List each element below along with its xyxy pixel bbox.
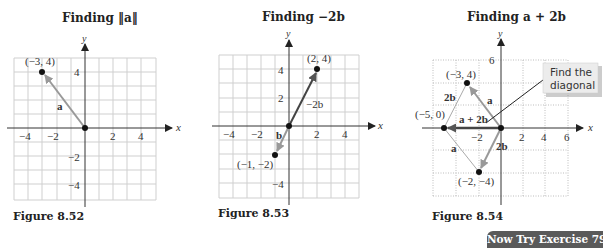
svg-text:(−2, −4): (−2, −4) xyxy=(458,175,495,188)
svg-text:2b: 2b xyxy=(444,91,456,103)
figure-1-caption: Figure 8.52 xyxy=(13,210,84,223)
svg-text:2: 2 xyxy=(519,131,525,143)
figure-2-caption: Figure 8.53 xyxy=(218,207,289,220)
svg-text:b: b xyxy=(276,129,282,141)
svg-text:−4: −4 xyxy=(19,130,31,142)
svg-text:−2: −2 xyxy=(47,130,59,142)
svg-text:y: y xyxy=(285,28,291,39)
svg-text:−4: −4 xyxy=(223,128,235,140)
svg-text:4: 4 xyxy=(278,64,284,76)
svg-text:x: x xyxy=(377,119,383,131)
callout-box: Find the diagonal xyxy=(543,63,602,97)
svg-text:(−3, 4): (−3, 4) xyxy=(446,68,476,81)
svg-text:4: 4 xyxy=(342,128,348,140)
svg-text:4: 4 xyxy=(138,130,144,142)
svg-text:−2: −2 xyxy=(471,131,483,143)
svg-text:−2b: −2b xyxy=(306,98,324,110)
svg-text:y: y xyxy=(497,28,503,39)
svg-text:−2: −2 xyxy=(68,151,80,163)
figure-3-plot: y x (−3, 4) (−5, 0) (−2, −4) a a 2b 2b a… xyxy=(400,0,610,215)
svg-text:y: y xyxy=(81,33,87,44)
svg-text:a: a xyxy=(57,100,63,112)
figure-3-caption: Figure 8.54 xyxy=(432,210,503,223)
figure-1-labels: y x (−3, 4) a −4 −2 2 4 4 −2 −4 xyxy=(0,0,200,215)
svg-text:6: 6 xyxy=(489,54,495,66)
callout-leader xyxy=(486,80,543,123)
svg-text:2: 2 xyxy=(110,130,116,142)
svg-text:2: 2 xyxy=(314,128,320,140)
figure-2-plot: y x (2, 4) (−1, −2) −2b b −4 −2 2 4 4 2 … xyxy=(200,0,400,215)
svg-text:4: 4 xyxy=(74,66,80,78)
svg-text:−2: −2 xyxy=(251,128,263,140)
svg-text:(−5, 0): (−5, 0) xyxy=(415,108,445,121)
now-try-exercise-button[interactable]: Now Try Exercise 79 xyxy=(487,231,603,248)
svg-text:2: 2 xyxy=(278,92,284,104)
svg-text:(−1, −2): (−1, −2) xyxy=(237,158,274,171)
svg-text:6: 6 xyxy=(564,131,570,143)
svg-text:(2, 4): (2, 4) xyxy=(307,52,331,65)
svg-text:−4: −4 xyxy=(272,178,284,190)
svg-text:a: a xyxy=(451,142,457,154)
svg-text:(−3, 4): (−3, 4) xyxy=(25,55,55,68)
svg-text:4: 4 xyxy=(541,131,547,143)
svg-text:Find the: Find the xyxy=(550,66,592,78)
svg-text:x: x xyxy=(175,121,181,133)
svg-text:diagonal: diagonal xyxy=(550,79,595,91)
svg-text:a: a xyxy=(487,94,493,106)
svg-text:2b: 2b xyxy=(496,140,508,152)
svg-text:a + 2b: a + 2b xyxy=(459,113,488,125)
svg-text:x: x xyxy=(587,121,593,133)
svg-text:−4: −4 xyxy=(68,179,80,191)
